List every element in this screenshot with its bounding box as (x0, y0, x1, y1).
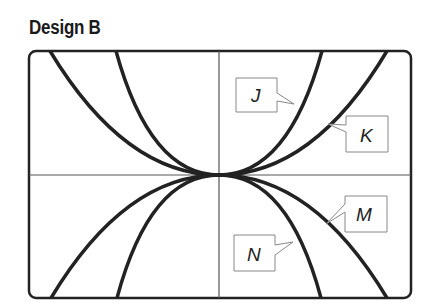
label-k: K (328, 116, 388, 152)
label-m: M (326, 196, 387, 232)
label-j: J (236, 78, 294, 112)
graph-diagram: J K M N (0, 0, 432, 308)
svg-text:M: M (356, 204, 372, 225)
svg-text:K: K (360, 125, 374, 146)
svg-text:N: N (247, 244, 261, 265)
svg-text:J: J (250, 85, 261, 106)
label-n: N (234, 235, 293, 271)
